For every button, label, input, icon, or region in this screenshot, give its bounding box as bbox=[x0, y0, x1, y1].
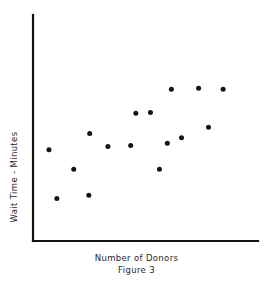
data-point bbox=[54, 196, 59, 201]
data-point bbox=[169, 87, 174, 92]
figure-caption: Figure 3 bbox=[0, 265, 273, 277]
scatter-plot-canvas bbox=[0, 0, 273, 295]
y-axis-label: Wait Time - Minutes bbox=[9, 117, 19, 237]
data-point bbox=[206, 125, 211, 130]
data-point bbox=[46, 147, 51, 152]
data-point bbox=[71, 167, 76, 172]
data-point bbox=[128, 143, 133, 148]
data-point bbox=[221, 87, 226, 92]
axes-group bbox=[33, 15, 258, 241]
data-point bbox=[165, 141, 170, 146]
data-points-group bbox=[46, 86, 225, 201]
data-point bbox=[148, 110, 153, 115]
data-point bbox=[87, 131, 92, 136]
data-point bbox=[196, 86, 201, 91]
figure-3-scatter-plot: Number of Donors Figure 3 Wait Time - Mi… bbox=[0, 0, 273, 295]
x-axis-label: Number of Donors bbox=[95, 253, 179, 263]
x-axis-title-block: Number of Donors Figure 3 bbox=[0, 253, 273, 276]
data-point bbox=[157, 167, 162, 172]
data-point bbox=[105, 144, 110, 149]
data-point bbox=[86, 193, 91, 198]
data-point bbox=[133, 111, 138, 116]
data-point bbox=[179, 135, 184, 140]
